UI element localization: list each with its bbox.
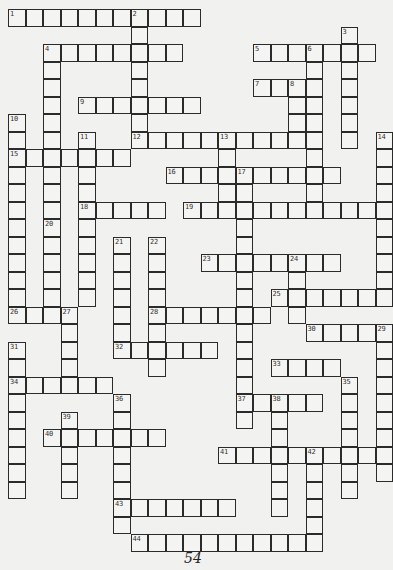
crossword-cell[interactable] (218, 254, 236, 272)
crossword-cell[interactable] (271, 132, 289, 150)
crossword-cell[interactable] (306, 499, 324, 517)
crossword-cell[interactable] (253, 132, 271, 150)
crossword-cell[interactable] (43, 114, 61, 132)
crossword-cell[interactable] (376, 464, 393, 482)
crossword-cell[interactable] (78, 254, 96, 272)
crossword-cell[interactable]: 1 (8, 9, 26, 27)
crossword-cell[interactable] (113, 412, 131, 430)
crossword-cell[interactable] (78, 429, 96, 447)
crossword-cell[interactable] (78, 9, 96, 27)
crossword-cell[interactable] (323, 202, 341, 220)
crossword-cell[interactable] (306, 517, 324, 535)
crossword-cell[interactable] (61, 447, 79, 465)
crossword-cell[interactable] (323, 324, 341, 342)
crossword-cell[interactable] (253, 447, 271, 465)
crossword-cell[interactable] (306, 254, 324, 272)
crossword-cell[interactable] (218, 167, 236, 185)
crossword-cell[interactable] (96, 44, 114, 62)
crossword-cell[interactable] (236, 342, 254, 360)
crossword-cell[interactable] (341, 62, 359, 80)
crossword-cell[interactable] (96, 149, 114, 167)
crossword-cell[interactable] (236, 307, 254, 325)
crossword-cell[interactable] (148, 499, 166, 517)
crossword-cell[interactable] (78, 219, 96, 237)
crossword-cell[interactable] (253, 307, 271, 325)
crossword-cell[interactable]: 2 (131, 9, 149, 27)
crossword-cell[interactable] (8, 429, 26, 447)
crossword-cell[interactable] (271, 464, 289, 482)
crossword-cell[interactable] (271, 482, 289, 500)
crossword-cell[interactable] (131, 342, 149, 360)
crossword-cell[interactable] (341, 79, 359, 97)
crossword-cell[interactable] (78, 289, 96, 307)
crossword-cell[interactable] (166, 307, 184, 325)
crossword-cell[interactable] (43, 149, 61, 167)
crossword-cell[interactable] (376, 272, 393, 290)
crossword-cell[interactable] (236, 272, 254, 290)
crossword-cell[interactable] (113, 517, 131, 535)
crossword-cell[interactable]: 14 (376, 132, 393, 150)
crossword-cell[interactable] (288, 202, 306, 220)
crossword-cell[interactable] (376, 167, 393, 185)
crossword-cell[interactable] (43, 132, 61, 150)
crossword-cell[interactable] (236, 412, 254, 430)
crossword-cell[interactable] (341, 44, 359, 62)
crossword-cell[interactable]: 21 (113, 237, 131, 255)
crossword-cell[interactable] (148, 202, 166, 220)
crossword-cell[interactable] (61, 359, 79, 377)
crossword-cell[interactable] (8, 184, 26, 202)
crossword-cell[interactable] (26, 377, 44, 395)
crossword-cell[interactable] (8, 237, 26, 255)
crossword-cell[interactable]: 27 (61, 307, 79, 325)
crossword-cell[interactable] (306, 394, 324, 412)
crossword-cell[interactable] (8, 272, 26, 290)
crossword-cell[interactable] (271, 499, 289, 517)
crossword-cell[interactable] (218, 202, 236, 220)
crossword-cell[interactable]: 34 (8, 377, 26, 395)
crossword-cell[interactable] (323, 359, 341, 377)
crossword-cell[interactable] (201, 342, 219, 360)
crossword-cell[interactable] (306, 464, 324, 482)
crossword-cell[interactable] (306, 534, 324, 552)
crossword-cell[interactable] (131, 114, 149, 132)
crossword-cell[interactable] (78, 272, 96, 290)
crossword-cell[interactable] (288, 394, 306, 412)
crossword-cell[interactable] (26, 149, 44, 167)
crossword-cell[interactable] (236, 184, 254, 202)
crossword-cell[interactable] (61, 482, 79, 500)
crossword-cell[interactable] (113, 149, 131, 167)
crossword-cell[interactable] (236, 377, 254, 395)
crossword-cell[interactable]: 13 (218, 132, 236, 150)
crossword-cell[interactable] (236, 289, 254, 307)
crossword-cell[interactable] (236, 254, 254, 272)
crossword-cell[interactable] (166, 9, 184, 27)
crossword-cell[interactable] (306, 359, 324, 377)
crossword-cell[interactable]: 40 (43, 429, 61, 447)
crossword-cell[interactable] (376, 184, 393, 202)
crossword-cell[interactable] (341, 464, 359, 482)
crossword-cell[interactable] (78, 237, 96, 255)
crossword-cell[interactable] (376, 359, 393, 377)
crossword-cell[interactable] (43, 289, 61, 307)
crossword-cell[interactable] (201, 499, 219, 517)
crossword-cell[interactable] (288, 97, 306, 115)
crossword-cell[interactable] (78, 377, 96, 395)
crossword-cell[interactable] (8, 464, 26, 482)
crossword-cell[interactable] (236, 534, 254, 552)
crossword-cell[interactable] (166, 342, 184, 360)
crossword-cell[interactable] (218, 307, 236, 325)
crossword-cell[interactable] (148, 9, 166, 27)
crossword-cell[interactable] (113, 447, 131, 465)
crossword-cell[interactable] (341, 429, 359, 447)
crossword-cell[interactable] (43, 377, 61, 395)
crossword-cell[interactable] (376, 254, 393, 272)
crossword-cell[interactable]: 42 (306, 447, 324, 465)
crossword-cell[interactable] (376, 412, 393, 430)
crossword-cell[interactable]: 39 (61, 412, 79, 430)
crossword-cell[interactable]: 17 (236, 167, 254, 185)
crossword-cell[interactable] (376, 447, 393, 465)
crossword-cell[interactable] (183, 9, 201, 27)
crossword-cell[interactable] (253, 202, 271, 220)
crossword-cell[interactable] (113, 324, 131, 342)
crossword-cell[interactable] (288, 534, 306, 552)
